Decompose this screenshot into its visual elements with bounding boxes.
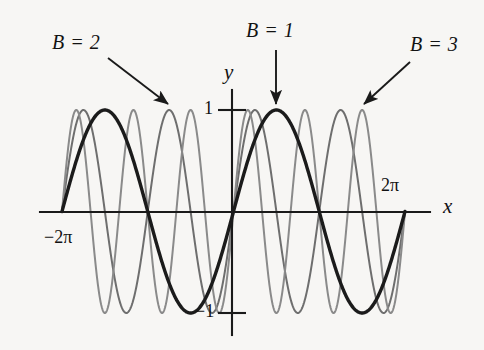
x-tick-label-two-pi: 2π <box>381 176 399 194</box>
x-axis-label: x <box>443 196 452 217</box>
sine-curves-figure: B = 2 B = 1 B = 3 y x 1 −1 −2π 2π <box>0 0 484 350</box>
arrow-b3 <box>364 62 410 104</box>
series-label-b3: B = 3 <box>410 34 458 54</box>
axes-layer <box>40 90 430 335</box>
series-label-b2: B = 2 <box>52 32 100 52</box>
annotation-arrows-layer <box>108 50 410 104</box>
x-tick-label-negative-two-pi: −2π <box>44 228 72 246</box>
series-label-b1: B = 1 <box>246 20 294 40</box>
y-axis-label: y <box>224 62 233 83</box>
y-tick-label-one: 1 <box>204 99 213 117</box>
y-tick-label-negative-one: −1 <box>195 302 214 320</box>
arrow-b2 <box>108 58 168 104</box>
